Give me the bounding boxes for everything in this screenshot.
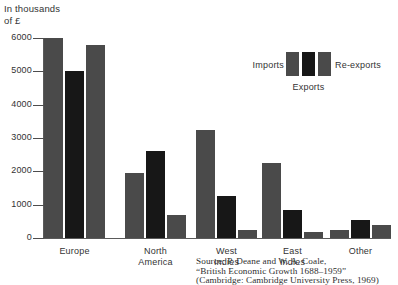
bar-imports: [125, 173, 144, 238]
y-tick-label: 3000: [0, 132, 32, 142]
y-tick-mark: [33, 38, 44, 39]
bar-re-exports: [372, 225, 391, 238]
y-tick-mark: [33, 138, 44, 139]
bar-chart-plot-area: 6000500040003000200010000 EuropeNorth Am…: [0, 0, 398, 285]
y-tick-mark: [33, 171, 44, 172]
legend-label-exports: Exports: [286, 82, 331, 92]
y-tick-label: 5000: [0, 65, 32, 75]
y-tick-label: 0: [0, 232, 32, 242]
category-label: Other: [321, 246, 398, 257]
bar-exports: [217, 196, 236, 238]
legend-swatch-imports: [286, 52, 299, 76]
legend-label-reexports: Re-exports: [335, 60, 381, 70]
y-tick-mark: [33, 205, 44, 206]
legend-swatch-exports: [302, 52, 315, 76]
legend-label-imports: Imports: [243, 60, 284, 70]
chart-legend: Imports Re-exports Exports: [243, 48, 395, 98]
bar-imports: [330, 230, 349, 238]
x-axis-line: [43, 238, 391, 239]
y-tick-mark: [33, 105, 44, 106]
category-label: Europe: [35, 246, 115, 257]
bar-re-exports: [304, 232, 323, 238]
y-tick-label: 6000: [0, 32, 32, 42]
bar-re-exports: [167, 215, 186, 238]
y-tick-mark: [33, 238, 44, 239]
y-tick-label: 4000: [0, 99, 32, 109]
legend-swatch-reexports: [318, 52, 331, 76]
bar-re-exports: [238, 230, 257, 238]
bar-imports: [44, 38, 63, 238]
bar-exports: [65, 71, 84, 238]
category-label: North America: [116, 246, 196, 268]
bar-exports: [283, 210, 302, 238]
bar-imports: [262, 163, 281, 238]
bar-re-exports: [86, 45, 105, 238]
bar-exports: [351, 220, 370, 238]
bar-exports: [146, 151, 165, 238]
y-tick-label: 1000: [0, 199, 32, 209]
y-tick-label: 2000: [0, 165, 32, 175]
y-tick-mark: [33, 71, 44, 72]
source-citation: Source: P. Deane and W. A. Coale, “Briti…: [196, 257, 379, 285]
bar-imports: [196, 130, 215, 238]
